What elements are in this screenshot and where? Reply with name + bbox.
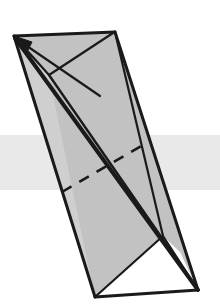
figure-canvas (0, 0, 220, 304)
geometry-figure (0, 0, 220, 304)
